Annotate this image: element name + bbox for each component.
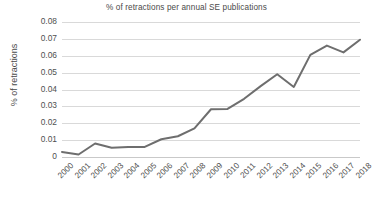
y-axis-tick-label: 0.07: [0, 33, 57, 43]
y-axis-tick-label: 0.05: [0, 67, 57, 77]
x-axis-tick-labels: 2000200120022003200420052006200720082009…: [62, 158, 360, 200]
y-axis-tick-label: 0.04: [0, 84, 57, 94]
series-line-retractions: [62, 22, 360, 157]
chart-container: % of retractions per annual SE publicati…: [0, 0, 373, 200]
y-axis-tick-label: 0.02: [0, 117, 57, 127]
y-axis-tick-label: 0.06: [0, 50, 57, 60]
y-axis-tick-label: 0.03: [0, 100, 57, 110]
y-axis-tick-label: 0: [0, 151, 57, 161]
y-axis-tick-label: 0.01: [0, 134, 57, 144]
y-axis-tick-label: 0.08: [0, 16, 57, 26]
chart-title: % of retractions per annual SE publicati…: [0, 3, 373, 12]
plot-area: [62, 22, 360, 157]
